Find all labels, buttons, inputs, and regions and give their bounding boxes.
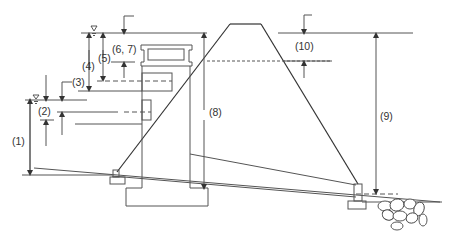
water-surface-icon-upper <box>91 26 97 36</box>
dam-cross-section-diagram: (1) (2) (3) (4) (5) (6, 7) (8) (10) <box>0 0 464 238</box>
dimension-5: (5) <box>98 35 111 79</box>
label-2: (2) <box>38 105 51 117</box>
headwater-level <box>81 16 207 36</box>
label-1: (1) <box>12 135 25 147</box>
label-10: (10) <box>295 40 314 52</box>
dimension-10: (10) <box>278 15 413 78</box>
dimension-1: (1) <box>12 101 30 173</box>
label-6-7: (6, 7) <box>112 43 137 55</box>
dam-embankment <box>117 24 358 184</box>
dimension-6-7: (6, 7) <box>112 43 137 78</box>
riprap-rocks <box>378 197 427 230</box>
label-8: (8) <box>209 106 222 118</box>
water-surface-icon-lower <box>33 95 39 104</box>
dimension-8: (8) <box>204 35 222 187</box>
label-4: (4) <box>82 60 95 72</box>
dimension-3: (3) <box>72 76 85 88</box>
label-3: (3) <box>72 76 85 88</box>
outlet-conduit <box>22 154 440 202</box>
dimension-2: (2) <box>38 105 62 146</box>
label-9: (9) <box>380 110 393 122</box>
dimension-9: (9) <box>376 35 393 192</box>
label-5: (5) <box>98 52 111 64</box>
reference-lines <box>40 62 172 124</box>
